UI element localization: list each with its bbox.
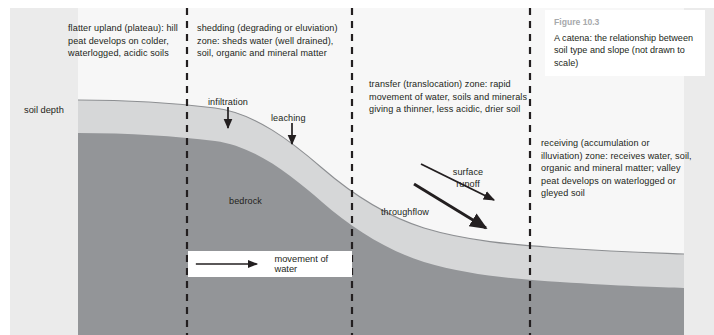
zone-label-shedding: shedding (degrading or eluviation) zone:… (197, 22, 347, 60)
figure-caption-box: Figure 10.3 A catena: the relationship b… (545, 10, 705, 76)
soil-depth-label: soil depth (24, 104, 84, 118)
legend-label: movement of water (274, 254, 352, 274)
figure-number: Figure 10.3 (554, 16, 696, 28)
surface-runoff-label: surface runoff (440, 166, 496, 191)
bedrock-label: bedrock (229, 195, 262, 208)
zone-label-upland: flatter upland (plateau): hill peat deve… (68, 22, 186, 60)
zone-label-receiving: receiving (accumulation or illuviation) … (541, 137, 693, 200)
infiltration-label: infiltration (208, 96, 248, 109)
legend-box: movement of water (188, 251, 352, 277)
throughflow-label: throughflow (381, 206, 429, 219)
figure-caption-text: A catena: the relationship between soil … (554, 32, 696, 69)
figure-root: soil depth flatter upland (plateau): hil… (0, 0, 714, 335)
leaching-label: leaching (271, 112, 306, 125)
movement-of-water-arrow-icon (188, 257, 268, 271)
zone-label-transfer: transfer (translocation) zone: rapid mov… (369, 78, 531, 116)
